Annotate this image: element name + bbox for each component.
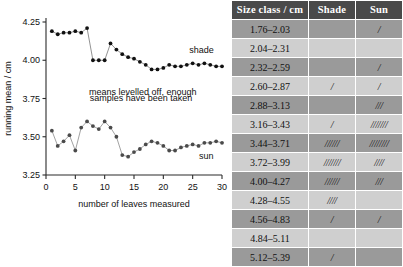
data-point-sun: [150, 139, 154, 143]
data-point-shade: [150, 68, 154, 72]
cell-shade-tally: /: [309, 248, 356, 267]
data-point-sun: [220, 141, 224, 145]
data-point-shade: [179, 64, 183, 68]
x-tick-label: 0: [43, 182, 48, 192]
cell-shade-tally: [309, 39, 356, 58]
tally-marks-shade: //////: [325, 138, 339, 149]
data-point-sun: [138, 147, 142, 151]
tally-marks-sun: ///: [375, 100, 382, 111]
data-point-shade: [79, 31, 83, 35]
data-point-sun: [91, 124, 95, 128]
data-point-shade: [138, 60, 142, 64]
data-point-shade: [161, 66, 165, 70]
data-point-shade: [68, 31, 72, 35]
cell-shade-tally: [309, 58, 356, 77]
cell-sun-tally: /: [356, 20, 403, 39]
data-point-shade: [91, 58, 95, 62]
table-row: 2.88–3.13///: [232, 96, 403, 115]
data-point-sun: [167, 149, 171, 153]
cell-size-class: 3.16–3.43: [232, 115, 309, 134]
cell-shade-tally: [309, 229, 356, 248]
cell-size-class: 1.76–2.03: [232, 20, 309, 39]
data-point-shade: [220, 64, 224, 68]
data-point-sun: [185, 144, 189, 148]
tally-marks-shade: /: [331, 214, 333, 225]
data-point-sun: [173, 149, 177, 153]
data-point-sun: [197, 144, 201, 148]
table-row: 1.76–2.03/: [232, 20, 403, 39]
y-tick-label: 4.00: [22, 55, 40, 65]
cell-shade-tally: [309, 20, 356, 39]
cell-sun-tally: ///: [356, 172, 403, 191]
data-point-sun: [120, 153, 124, 157]
data-point-shade: [191, 61, 195, 65]
cell-size-class: 2.32–2.59: [232, 58, 309, 77]
cell-sun-tally: ////////: [356, 134, 403, 153]
column-header-sun: Sun: [356, 1, 403, 20]
cell-shade-tally: //////: [309, 172, 356, 191]
data-point-shade: [73, 29, 77, 33]
y-tick-label: 4.25: [22, 17, 40, 27]
data-point-sun: [109, 126, 113, 130]
data-point-shade: [144, 63, 148, 67]
cell-size-class: 4.00–4.27: [232, 172, 309, 191]
table-head: Size class / cm Shade Sun: [232, 1, 403, 20]
x-axis-title: number of leaves measured: [78, 199, 190, 209]
cell-shade-tally: //////: [309, 134, 356, 153]
data-point-sun: [97, 127, 101, 131]
cell-sun-tally: ///////: [356, 115, 403, 134]
x-tick-label: 25: [188, 182, 198, 192]
data-point-sun: [179, 146, 183, 150]
cell-sun-tally: [356, 191, 403, 210]
data-point-sun: [68, 133, 72, 137]
cell-sun-tally: [356, 229, 403, 248]
x-tick-label: 20: [158, 182, 168, 192]
tally-marks-sun: /: [378, 214, 380, 225]
table-row: 3.72–3.99///////////: [232, 153, 403, 172]
data-point-sun: [103, 120, 107, 124]
cell-sun-tally: [356, 248, 403, 267]
tally-marks-shade: ////: [327, 195, 337, 206]
column-header-size-class: Size class / cm: [232, 1, 309, 20]
data-point-sun: [115, 135, 119, 139]
data-point-shade: [85, 26, 89, 30]
tally-marks-shade: /: [331, 252, 333, 263]
cell-sun-tally: ///: [356, 96, 403, 115]
series-line-sun: [52, 121, 222, 156]
table-row: 3.16–3.43////////: [232, 115, 403, 134]
cell-size-class: 4.28–4.55: [232, 191, 309, 210]
cell-shade-tally: /: [309, 210, 356, 229]
table-row: 3.44–3.71//////////////: [232, 134, 403, 153]
cell-sun-tally: ////: [356, 153, 403, 172]
data-point-sun: [161, 144, 165, 148]
data-point-sun: [50, 129, 54, 133]
annotation-line-2: samples have been taken: [90, 93, 193, 103]
cell-sun-tally: /: [356, 210, 403, 229]
data-point-shade: [132, 57, 136, 61]
table-row: 2.04–2.31: [232, 39, 403, 58]
table-header-row: Size class / cm Shade Sun: [232, 1, 403, 20]
x-tick-label: 30: [217, 182, 227, 192]
cell-size-class: 5.12–5.39: [232, 248, 309, 267]
data-point-shade: [120, 52, 124, 56]
table-row: 4.00–4.27/////////: [232, 172, 403, 191]
y-tick-label: 3.50: [22, 132, 40, 142]
x-tick-label: 5: [73, 182, 78, 192]
cell-shade-tally: ////: [309, 191, 356, 210]
cell-sun-tally: /: [356, 77, 403, 96]
data-point-shade: [103, 58, 107, 62]
data-point-sun: [191, 143, 195, 147]
tally-marks-sun: ///: [375, 176, 382, 187]
data-point-shade: [185, 63, 189, 67]
table-row: 5.12–5.39/: [232, 248, 403, 267]
data-point-shade: [115, 48, 119, 52]
cell-size-class: 2.04–2.31: [232, 39, 309, 58]
data-point-sun: [126, 155, 130, 159]
cell-sun-tally: /: [356, 58, 403, 77]
table-row: 2.60–2.87//: [232, 77, 403, 96]
data-point-shade: [208, 63, 212, 67]
size-class-tally-table: Size class / cm Shade Sun 1.76–2.03/2.04…: [231, 0, 401, 225]
cell-size-class: 3.44–3.71: [232, 134, 309, 153]
tally-marks-sun: ////: [374, 157, 384, 168]
y-tick-label: 3.25: [22, 170, 40, 180]
